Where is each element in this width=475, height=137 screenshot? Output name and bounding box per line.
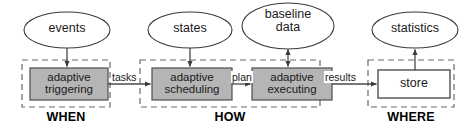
node-ellipse-statistics [372, 12, 458, 48]
group-label-how: HOW [140, 110, 320, 124]
node-ellipse-states [148, 12, 232, 48]
group-label-where: WHERE [368, 110, 454, 124]
edge-label-plan: plan [231, 71, 253, 83]
node-box-store [378, 70, 450, 98]
node-box-adaptive-triggering [30, 68, 108, 100]
node-box-adaptive-executing [252, 68, 332, 100]
diagram-canvas: events states baseline data statistics a… [0, 0, 475, 137]
node-ellipse-events [24, 12, 110, 48]
node-box-adaptive-scheduling [152, 68, 232, 100]
edge-label-tasks: tasks [111, 71, 138, 83]
node-ellipse-baseline-data [242, 3, 334, 49]
group-label-when: WHEN [22, 110, 110, 124]
edge-label-results: results [324, 71, 357, 83]
